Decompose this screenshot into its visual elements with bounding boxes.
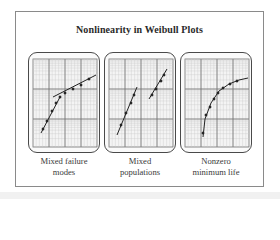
graph-paper-grid <box>33 59 97 147</box>
graph-paper-grid <box>109 59 173 147</box>
label-line: minimum life <box>171 167 261 178</box>
graph-paper-grid <box>185 59 249 147</box>
weibull-plot-mixed-failure-modes <box>29 53 101 154</box>
bottom-band <box>0 192 280 199</box>
panel-mixed-populations <box>104 52 176 153</box>
label-line: Nonzero <box>171 156 261 167</box>
panel-nonzero-minimum-life <box>180 52 252 153</box>
label-nonzero-minimum-life: Nonzero minimum life <box>171 156 261 178</box>
panel-mixed-failure-modes <box>28 52 100 153</box>
weibull-plot-nonzero-minimum-life <box>181 53 253 154</box>
weibull-plot-mixed-populations <box>105 53 177 154</box>
figure-title: Nonlinearity in Weibull Plots <box>15 24 264 35</box>
